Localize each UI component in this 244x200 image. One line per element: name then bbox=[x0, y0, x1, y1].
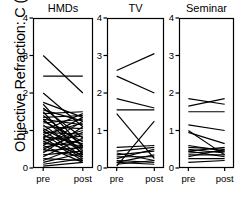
y-tick-label: 1 bbox=[97, 125, 102, 136]
panel-tv: 01234TVprepost bbox=[97, 2, 164, 184]
y-tick-label: 0 bbox=[23, 162, 28, 173]
y-tick-label: 1 bbox=[23, 125, 28, 136]
x-tick-label-pre: pre bbox=[110, 173, 124, 184]
y-tick-label: 4 bbox=[23, 12, 28, 23]
y-tick-label: 3 bbox=[169, 50, 174, 61]
y-tick-label: 4 bbox=[97, 12, 102, 23]
panel-hmds: 01234HMDsprepost bbox=[23, 2, 93, 184]
y-tick-label: 3 bbox=[23, 50, 28, 61]
plot-svg: 01234HMDsprepost01234TVprepost01234Semin… bbox=[0, 0, 244, 200]
data-line bbox=[117, 76, 155, 93]
x-tick-label-pre: pre bbox=[36, 173, 50, 184]
y-tick-label: 2 bbox=[169, 87, 174, 98]
data-line bbox=[188, 132, 224, 143]
panel-title: Seminar bbox=[186, 2, 227, 14]
data-line bbox=[188, 125, 224, 131]
y-tick-label: 1 bbox=[169, 125, 174, 136]
y-tick-label: 2 bbox=[97, 87, 102, 98]
parallel-coordinates-figure: Objective Refraction: C (D) 01234HMDspre… bbox=[0, 0, 244, 200]
y-tick-label: 3 bbox=[97, 50, 102, 61]
x-tick-label-post: post bbox=[216, 173, 234, 184]
panel-frame bbox=[180, 19, 234, 168]
data-line bbox=[117, 146, 155, 148]
y-tick-label: 2 bbox=[23, 87, 28, 98]
y-tick-label: 0 bbox=[97, 162, 102, 173]
panel-seminar: 01234Seminarprepost bbox=[169, 2, 234, 184]
x-tick-label-post: post bbox=[74, 173, 92, 184]
panel-title: HMDs bbox=[48, 2, 79, 14]
x-tick-label-pre: pre bbox=[181, 173, 195, 184]
panel-frame bbox=[108, 19, 164, 168]
data-line bbox=[117, 54, 155, 71]
data-line bbox=[117, 99, 155, 108]
data-line bbox=[188, 161, 224, 163]
panel-frame bbox=[34, 19, 93, 168]
y-tick-label: 4 bbox=[169, 12, 174, 23]
x-tick-label-post: post bbox=[145, 173, 163, 184]
y-tick-label: 0 bbox=[169, 162, 174, 173]
data-line bbox=[43, 56, 83, 94]
panel-title: TV bbox=[128, 2, 143, 14]
